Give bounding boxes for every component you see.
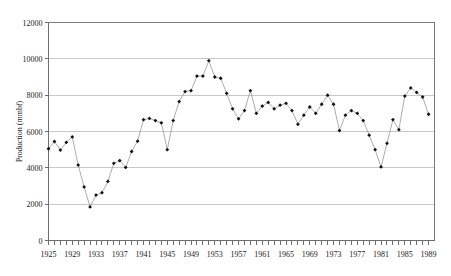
data-point-1944 [159, 121, 163, 125]
data-point-1971 [320, 102, 324, 106]
x-tick-label-1957: 1957 [231, 250, 247, 259]
y-tick-label-6000: 6000 [27, 128, 43, 137]
data-point-1936 [112, 161, 116, 165]
data-point-1935 [106, 180, 110, 184]
y-tick-label-12000: 12000 [23, 19, 43, 28]
x-tick-label-1981: 1981 [373, 250, 389, 259]
data-point-1973 [332, 102, 336, 106]
y-tick-label-2000: 2000 [27, 200, 43, 209]
x-tick-label-1977: 1977 [349, 250, 365, 259]
data-point-1989 [427, 112, 431, 116]
data-point-1972 [326, 93, 330, 97]
x-tick-label-1941: 1941 [136, 250, 152, 259]
x-tick-label-1929: 1929 [64, 250, 80, 259]
data-point-1930 [76, 163, 80, 167]
y-tick-label-4000: 4000 [27, 164, 43, 173]
x-tick-label-1961: 1961 [254, 250, 270, 259]
y-axis-title: Production (mmbf) [15, 100, 24, 162]
x-tick-label-1965: 1965 [278, 250, 294, 259]
data-series-production [47, 59, 431, 209]
chart-canvas: 120001000080006000400020000 192519291933… [0, 0, 451, 276]
y-tick-label-8000: 8000 [27, 91, 43, 100]
data-point-1983 [391, 118, 395, 122]
data-point-1953 [213, 75, 217, 79]
x-tick-label-1925: 1925 [41, 250, 57, 259]
x-tick-label-1933: 1933 [88, 250, 104, 259]
x-tick-label-1973: 1973 [326, 250, 342, 259]
data-point-1946 [171, 119, 175, 123]
data-point-1947 [177, 100, 181, 104]
series-polyline [49, 61, 429, 207]
x-tick-label-1937: 1937 [112, 250, 128, 259]
x-tick-label-1989: 1989 [421, 250, 437, 259]
gridlines [49, 23, 435, 205]
data-point-1979 [367, 133, 371, 137]
x-axis-ticks [49, 241, 429, 245]
data-point-1964 [278, 103, 282, 107]
x-tick-label-1945: 1945 [159, 250, 175, 259]
data-point-1943 [153, 119, 157, 123]
data-point-1967 [296, 122, 300, 126]
y-tick-label-0: 0 [39, 237, 43, 246]
data-point-1948 [183, 90, 187, 94]
data-point-1941 [142, 118, 146, 122]
x-tick-label-1953: 1953 [207, 250, 223, 259]
data-point-1940 [136, 139, 140, 143]
y-axis-ticks [45, 23, 49, 241]
data-point-1956 [231, 107, 235, 111]
data-point-1932 [88, 205, 92, 209]
x-axis-tick-labels: 1925192919331937194119451949195319571961… [41, 250, 437, 259]
x-tick-label-1949: 1949 [183, 250, 199, 259]
y-axis-tick-labels: 120001000080006000400020000 [23, 19, 43, 246]
production-line-chart: 120001000080006000400020000 192519291933… [0, 0, 451, 276]
y-tick-label-10000: 10000 [23, 55, 43, 64]
x-tick-label-1985: 1985 [397, 250, 413, 259]
data-point-1959 [249, 89, 253, 93]
data-point-1933 [94, 193, 98, 197]
data-point-1982 [385, 141, 389, 145]
data-point-1949 [189, 89, 193, 93]
data-point-1951 [201, 74, 205, 78]
data-point-1939 [130, 150, 134, 154]
data-point-1934 [100, 191, 104, 195]
data-point-1954 [219, 76, 223, 80]
data-point-1945 [165, 148, 169, 152]
x-tick-label-1969: 1969 [302, 250, 318, 259]
data-point-1980 [373, 148, 377, 152]
data-point-1931 [82, 185, 86, 189]
data-point-1950 [195, 74, 199, 78]
data-point-1942 [148, 117, 152, 121]
